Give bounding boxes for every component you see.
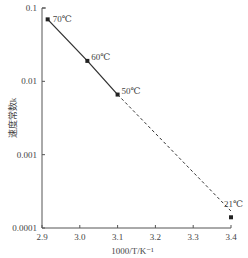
y-tick-label: 0.01 <box>21 76 37 86</box>
data-point <box>116 93 120 97</box>
x-tick-label: 3.4 <box>225 232 237 242</box>
dashed-extrapolation-line <box>118 95 231 212</box>
data-point <box>85 59 89 63</box>
x-tick-label: 3.2 <box>150 232 161 242</box>
point-label: 50℃ <box>122 86 141 96</box>
data-point <box>46 17 50 21</box>
x-tick-label: 3.3 <box>188 232 200 242</box>
x-tick-label: 3.0 <box>74 232 86 242</box>
y-tick-label: 0.1 <box>26 3 37 13</box>
y-axis-title: 速度常数k <box>7 97 18 138</box>
point-label: 60℃ <box>91 52 110 62</box>
arrhenius-chart: 2.93.03.13.23.33.40.10.010.0010.00011000… <box>0 0 248 258</box>
point-label: 70℃ <box>53 14 72 24</box>
x-tick-label: 3.1 <box>112 232 123 242</box>
y-tick-label: 0.0001 <box>12 223 37 233</box>
y-tick-label: 0.001 <box>17 150 37 160</box>
data-point <box>229 215 233 219</box>
x-axis-title: 1000/T/K⁻¹ <box>111 246 154 256</box>
point-label: 21℃ <box>224 199 243 209</box>
x-tick-label: 2.9 <box>36 232 48 242</box>
